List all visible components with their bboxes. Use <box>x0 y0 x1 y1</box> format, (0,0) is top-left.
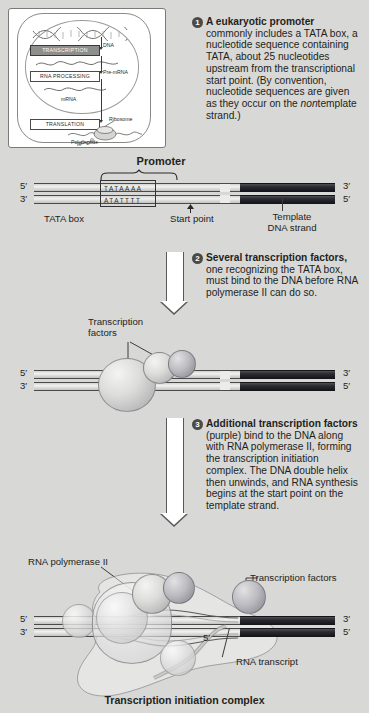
five-prime-top-left-p2: 5′ <box>20 367 27 378</box>
transcription-factor-small-p2 <box>168 350 196 378</box>
dna-nontemplate-strand <box>34 183 335 192</box>
five-prime-top-left-p1: 5′ <box>20 180 27 191</box>
five-prime-bottom-right-p1: 5′ <box>343 193 350 204</box>
start-point-gap-mid <box>220 192 230 195</box>
step-2-body: one recognizing the TATA box, must bind … <box>206 264 358 298</box>
step-3-badge: 3 <box>192 419 203 430</box>
step-1-italic: non <box>301 98 318 109</box>
tata-sequence-bottom: ATATTTT <box>104 197 141 204</box>
dna-helix-icon <box>31 27 129 41</box>
figure-caption: Transcription initiation complex <box>0 694 369 706</box>
dna-dark-bottom <box>240 195 335 204</box>
tata-sequence-top: TATAAAA <box>104 185 143 192</box>
rna-polymerase-label: RNA polymerase II <box>28 556 108 567</box>
step-3-text: Additional transcription factors (purple… <box>206 418 362 512</box>
panel-promoter: Promoter TATAAAA ATATTTT 5′ 3′ 3′ 5 <box>0 155 369 240</box>
dna-dark-top-p2 <box>240 370 335 379</box>
inset-box-rna-processing: RNA PROCESSING <box>30 71 100 82</box>
inset-box-transcription: TRANSCRIPTION <box>30 45 100 56</box>
five-prime-bottom-right-p3: 5′ <box>343 626 350 637</box>
three-prime-bottom-left-p2: 3′ <box>20 380 27 391</box>
five-prime-top-left-p3: 5′ <box>20 613 27 624</box>
flow-arrow-2 <box>160 418 188 528</box>
inset-label-pre-mrna: Pre-mRNA <box>103 69 128 75</box>
pre-mrna-squiggle-icon <box>35 59 119 68</box>
template-strand-leader <box>282 197 283 211</box>
dna-dark-top-p3 <box>240 616 335 625</box>
tf-label-line1-p2: Transcription <box>88 316 184 327</box>
tata-box-label: TATA box <box>44 213 84 224</box>
template-label-line2: DNA strand <box>252 222 332 233</box>
inset-label-dna: DNA <box>103 42 114 48</box>
three-prime-bottom-left-p1: 3′ <box>20 193 27 204</box>
step-1-body-a: commonly includes a TATA box, a nucleoti… <box>206 28 358 109</box>
inset-label-mrna: mRNA <box>61 96 76 102</box>
promoter-label: Promoter <box>116 155 206 167</box>
start-point-gap-mid-p2 <box>220 379 230 382</box>
panel-initiation-complex: RNA polymerase II Transcription factors <box>0 548 369 713</box>
transcription-factor-left-p3 <box>62 604 96 638</box>
transcription-factor-right-p3 <box>232 580 266 614</box>
dna-template-strand <box>34 195 335 204</box>
step-3-block: 3 Additional transcription factors (purp… <box>192 418 362 512</box>
transcription-initiation-figure: TRANSCRIPTION DNA RNA PROCESSING Pre-mRN… <box>0 0 369 713</box>
five-prime-bottom-right-p2: 5′ <box>343 380 350 391</box>
transcription-factor-lower-p3 <box>160 640 196 676</box>
rna-transcript-label: RNA transcript <box>236 656 298 667</box>
gene-expression-inset: TRANSCRIPTION DNA RNA PROCESSING Pre-mRN… <box>8 8 166 148</box>
three-prime-top-right-p3: 3′ <box>343 613 350 624</box>
tf-label-line2-p2: factors <box>88 327 184 338</box>
transcription-factor-upper-right-p3 <box>163 572 195 604</box>
three-prime-bottom-left-p3: 3′ <box>20 626 27 637</box>
step-3-body: (purple) bind to the DNA along with RNA … <box>206 430 358 511</box>
dna-template-strand-p2 <box>34 382 335 391</box>
mrna-squiggle-icon <box>43 85 107 94</box>
step-3-lead: Additional transcription factors <box>206 418 358 429</box>
arrow-head-pre-mrna <box>99 71 103 74</box>
flow-arrow-1 <box>160 252 188 316</box>
dna-duplex-panel1 <box>34 183 335 209</box>
three-prime-top-right-p1: 3′ <box>343 180 350 191</box>
step-1-block: 1 A eukaryotic promoter commonly include… <box>192 16 362 121</box>
arrow-shaft-pre-mrna <box>101 56 102 72</box>
start-point-label: Start point <box>170 213 214 224</box>
arrow-head-dna <box>99 47 103 50</box>
three-prime-top-right-p2: 3′ <box>343 367 350 378</box>
step-2-lead: Several transcription factors, <box>206 252 347 263</box>
panel-transcription-factors: Transcription factors 5′ 3′ <box>0 316 369 398</box>
step-1-text: A eukaryotic promoter commonly includes … <box>206 16 362 121</box>
step-1-lead: A eukaryotic promoter <box>206 16 314 27</box>
template-label-line1: Template <box>252 211 332 222</box>
template-dna-strand-label: Template DNA strand <box>252 211 332 233</box>
dna-dark-bottom-p2 <box>240 382 335 391</box>
arrow-shaft-mrna <box>101 79 102 121</box>
step-2-badge: 2 <box>192 253 203 264</box>
dna-dark-bottom-p3 <box>240 628 335 637</box>
dna-dark-top <box>240 183 335 192</box>
start-point-arrowhead <box>186 204 195 210</box>
step-2-text: Several transcription factors, one recog… <box>206 252 362 299</box>
step-1-badge: 1 <box>192 17 203 28</box>
step-2-block: 2 Several transcription factors, one rec… <box>192 252 362 299</box>
inset-label-polypeptide: Polypeptide <box>71 139 98 145</box>
rna-five-prime-label: 5′ <box>203 632 210 643</box>
transcription-factors-label-p2: Transcription factors <box>88 316 184 338</box>
